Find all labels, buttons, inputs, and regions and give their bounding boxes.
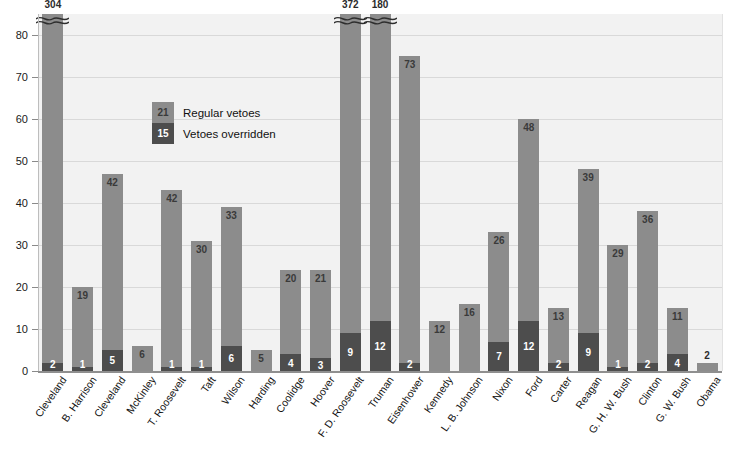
bar-group[interactable]: 2: [697, 363, 718, 371]
bar-group[interactable]: 362: [637, 211, 658, 371]
x-axis-label: Nixon: [490, 374, 515, 403]
bar-segment-regular-vetoes[interactable]: [42, 14, 63, 363]
bar-value-label-overridden: 2: [42, 359, 63, 370]
x-axis-label: Carter: [548, 374, 575, 405]
bar-group[interactable]: 399: [578, 169, 599, 371]
bar-value-label-regular: 12: [429, 324, 450, 335]
bar-value-label-overridden: 12: [518, 341, 539, 352]
bar-value-label-regular: 6: [132, 349, 153, 360]
bar-value-label-regular: 30: [191, 244, 212, 255]
bar-segment-regular-vetoes[interactable]: [607, 245, 628, 367]
bar-value-label-regular: 48: [518, 122, 539, 133]
bar-segment-regular-vetoes[interactable]: [637, 211, 658, 362]
bar-value-label-overridden: 3: [310, 360, 331, 371]
bar-group[interactable]: 336: [221, 207, 242, 371]
bar-group[interactable]: 732: [399, 56, 420, 371]
x-axis-label: Clinton: [635, 374, 664, 408]
bar-value-label-regular: 19: [72, 290, 93, 301]
bar-value-label-overridden: 4: [280, 358, 301, 369]
bar-group[interactable]: 425: [102, 174, 123, 371]
y-tick-label: 20: [2, 282, 28, 292]
bar-group[interactable]: 16: [459, 304, 480, 371]
y-tick-label: 0: [2, 366, 28, 376]
x-axis-label: Coolidge: [273, 374, 307, 415]
bar-group[interactable]: 191: [72, 287, 93, 371]
y-tick-label: 60: [2, 114, 28, 124]
bar-value-label-overridden: 7: [488, 351, 509, 362]
legend-item-vetoes-overridden: 15 Vetoes overridden: [152, 123, 302, 144]
legend-label-overridden: Vetoes overridden: [183, 128, 276, 140]
bar-group[interactable]: 213: [310, 270, 331, 371]
bar-segment-regular-vetoes[interactable]: [221, 207, 242, 346]
bar-value-label-overridden: 1: [607, 359, 628, 370]
legend-swatch-overridden: 15: [152, 123, 174, 144]
bar-value-label-overridden: 1: [161, 359, 182, 370]
bar-value-label-regular: 42: [161, 193, 182, 204]
y-tick-label: 30: [2, 240, 28, 250]
x-axis-label: Hoover: [307, 374, 336, 409]
bar-value-label-overridden: 2: [399, 359, 420, 370]
bar-value-label-regular: 26: [488, 235, 509, 246]
bar-group[interactable]: 3042: [42, 14, 63, 371]
bar-group[interactable]: 4812: [518, 119, 539, 371]
bar-value-label-regular: 2: [697, 350, 718, 361]
bar-value-label-broken-total: 372: [340, 0, 361, 10]
bar-value-label-broken-total: 180: [370, 0, 391, 10]
bar-group[interactable]: 12: [429, 321, 450, 371]
veto-chart-figure: 01020304050607080 3042191425642130133652…: [0, 0, 754, 462]
y-axis-line: [38, 14, 39, 371]
bar-group[interactable]: 18012: [370, 14, 391, 371]
bar-value-label-overridden: 9: [340, 347, 361, 358]
bar-value-label-regular: 16: [459, 307, 480, 318]
bar-segment-regular-vetoes[interactable]: [370, 14, 391, 321]
bar-segment-regular-vetoes[interactable]: [161, 190, 182, 366]
bar-value-label-regular: 73: [399, 59, 420, 70]
bar-value-label-regular: 5: [251, 353, 272, 364]
x-axis-label: Truman: [365, 374, 395, 410]
y-tick-label: 70: [2, 72, 28, 82]
bar-segment-regular-vetoes[interactable]: [578, 169, 599, 333]
bar-group[interactable]: 132: [548, 308, 569, 371]
bar-group[interactable]: 3729: [340, 14, 361, 371]
bar-group[interactable]: 301: [191, 241, 212, 371]
bar-value-label-overridden: 1: [191, 359, 212, 370]
bar-segment-regular-vetoes[interactable]: [518, 119, 539, 321]
bar-value-label-overridden: 5: [102, 355, 123, 366]
x-axis-label: Ford: [522, 374, 544, 399]
bar-value-label-regular: 42: [102, 177, 123, 188]
bar-value-label-regular: 39: [578, 172, 599, 183]
bar-value-label-regular: 33: [221, 210, 242, 221]
legend-label-regular: Regular vetoes: [183, 107, 260, 119]
bar-segment-regular-vetoes[interactable]: [488, 232, 509, 341]
bar-value-label-overridden: 2: [548, 359, 569, 370]
y-tick-label: 10: [2, 324, 28, 334]
bar-value-label-regular: 11: [667, 311, 688, 322]
bar-segment-regular-vetoes[interactable]: [191, 241, 212, 367]
y-tick-label: 50: [2, 156, 28, 166]
bar-segment-regular-vetoes[interactable]: [697, 363, 718, 371]
bar-value-label-regular: 13: [548, 311, 569, 322]
bar-value-label-overridden: 4: [667, 358, 688, 369]
bar-value-label-regular: 36: [637, 214, 658, 225]
bar-group[interactable]: 421: [161, 190, 182, 371]
bar-group[interactable]: 5: [251, 350, 272, 371]
bar-group[interactable]: 267: [488, 232, 509, 371]
x-axis-label: Harding: [246, 374, 277, 411]
bar-segment-regular-vetoes[interactable]: [399, 56, 420, 363]
bar-value-label-overridden: 1: [72, 359, 93, 370]
bar-value-label-overridden: 2: [637, 359, 658, 370]
x-axis-line: [38, 371, 722, 373]
bar-group[interactable]: 6: [132, 346, 153, 371]
legend-swatch-regular: 21: [152, 102, 174, 123]
bar-segment-regular-vetoes[interactable]: [102, 174, 123, 350]
bar-segment-regular-vetoes[interactable]: [340, 14, 361, 333]
bar-value-label-overridden: 12: [370, 341, 391, 352]
x-axis-label: Obama: [693, 374, 723, 409]
bar-group[interactable]: 114: [667, 308, 688, 371]
y-tick-label: 80: [2, 30, 28, 40]
bar-value-label-regular: 21: [310, 273, 331, 284]
chart-legend: 21 Regular vetoes 15 Vetoes overridden: [152, 102, 302, 144]
bar-group[interactable]: 291: [607, 245, 628, 371]
x-axis-label: Reagan: [573, 374, 604, 411]
bar-group[interactable]: 204: [280, 270, 301, 371]
